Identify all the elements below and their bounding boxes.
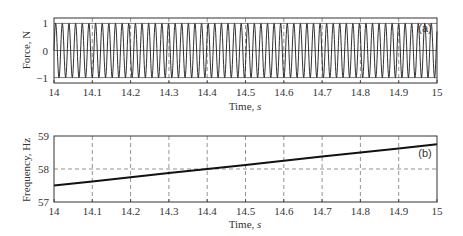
x-tick-label: 14.5 [236, 86, 256, 98]
frequency-panel-label: (b) [418, 147, 431, 159]
frequency-x-label: Time, s [229, 218, 262, 230]
x-tick-label: 14.7 [312, 86, 332, 98]
y-tick-label: 59 [38, 130, 50, 142]
x-tick-label: 14.4 [198, 86, 218, 98]
x-tick-label: 14.2 [121, 205, 140, 217]
x-tick-label: 14.5 [236, 205, 256, 217]
y-tick-label: 0 [43, 45, 49, 57]
x-tick-label: 14.6 [274, 86, 294, 98]
x-tick-label: 14.1 [83, 86, 102, 98]
x-tick-label: 15 [432, 86, 444, 98]
force-y-label: Force, N [20, 31, 32, 70]
x-tick-label: 15 [432, 205, 444, 217]
y-tick-label: 1 [43, 17, 49, 29]
x-tick-label: 14 [49, 205, 61, 217]
x-tick-label: 14.8 [351, 205, 371, 217]
frequency-y-label: Frequency, Hz [20, 138, 32, 202]
frequency-grid [54, 136, 437, 202]
x-tick-label: 14.9 [389, 205, 409, 217]
x-tick-label: 14.8 [351, 86, 371, 98]
x-tick-label: 14.9 [389, 86, 409, 98]
force-panel-label: (a) [418, 22, 431, 34]
frequency-y-ticks: 595857 [38, 130, 50, 208]
force-y-ticks: 10−1 [36, 17, 48, 83]
x-tick-label: 14.4 [198, 205, 218, 217]
x-tick-label: 14.6 [274, 205, 294, 217]
x-tick-label: 14 [49, 86, 61, 98]
y-tick-label: 58 [38, 163, 50, 175]
force-x-label: Time, s [229, 100, 262, 112]
x-tick-label: 14.3 [159, 205, 179, 217]
y-tick-label: 57 [38, 196, 50, 208]
x-tick-label: 14.1 [83, 205, 102, 217]
x-tick-label: 14.2 [121, 86, 140, 98]
x-tick-label: 14.3 [159, 86, 179, 98]
figure: 1414.114.214.314.414.514.614.714.814.915… [0, 0, 463, 236]
y-tick-label: −1 [36, 72, 48, 84]
frequency-plot: 1414.114.214.314.414.514.614.714.814.915… [20, 130, 443, 230]
force-plot: 1414.114.214.314.414.514.614.714.814.915… [20, 17, 443, 112]
x-tick-label: 14.7 [312, 205, 332, 217]
